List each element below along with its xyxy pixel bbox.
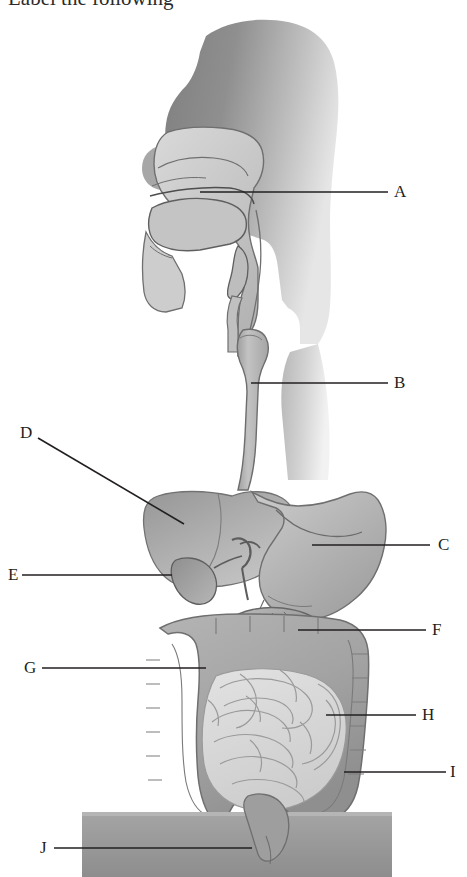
pelvis-torso-block [82,812,392,877]
leader-line-D [38,438,184,524]
label-J[interactable]: J [40,839,47,856]
label-G[interactable]: G [24,659,36,676]
label-A[interactable]: A [394,183,406,200]
oral-nasal-cavity [143,127,264,356]
label-I[interactable]: I [450,763,456,780]
label-H[interactable]: H [422,706,434,723]
label-E[interactable]: E [8,566,19,583]
label-C[interactable]: C [438,536,450,553]
anatomy-illustration [0,0,467,877]
label-D[interactable]: D [20,424,32,441]
label-F[interactable]: F [432,621,442,638]
esophagus [237,329,268,490]
digestive-system-figure: Label the following [0,0,467,877]
label-B[interactable]: B [394,374,406,391]
